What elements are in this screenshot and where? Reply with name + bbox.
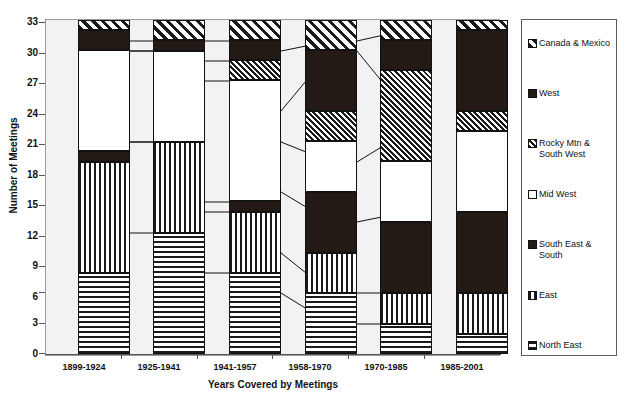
stacked-bar-chart: 33 30 27 24 21 18 15 12 9 6 3 0 Number o… xyxy=(0,0,621,404)
segment-west xyxy=(456,30,508,111)
segment-canada-and-mexico xyxy=(380,20,432,40)
y-axis-title: Number of Meetings xyxy=(8,101,19,231)
x-tick xyxy=(197,354,198,359)
legend-swatch-south-east-and-south-icon xyxy=(528,240,537,249)
segment-canada-and-mexico xyxy=(153,20,205,40)
segment-rocky-mtn-south-west xyxy=(305,111,357,141)
segment-south-east-and-south xyxy=(456,212,508,293)
x-tick-label-1899-1924: 1899-1924 xyxy=(46,362,122,373)
x-tick-label-1970-1985: 1970-1985 xyxy=(348,362,424,373)
legend-swatch-mid-west-icon xyxy=(528,190,537,199)
segment-east xyxy=(153,142,205,233)
legend-label: Mid West xyxy=(539,189,576,200)
segment-west xyxy=(305,50,357,111)
x-tick-label-1925-1941: 1925-1941 xyxy=(121,362,197,373)
segment-east xyxy=(380,293,432,324)
x-axis-title: Years Covered by Meetings xyxy=(45,379,501,390)
x-tick xyxy=(424,354,425,359)
segment-canada-and-mexico xyxy=(305,20,357,50)
chart-legend: Canada & Mexico West Rocky Mtn & South W… xyxy=(521,19,617,356)
legend-swatch-canada-and-mexico-icon xyxy=(528,39,537,48)
legend-item-south-east-and-south: South East & South xyxy=(528,239,616,260)
segment-north-east xyxy=(229,273,281,354)
plot-area xyxy=(46,20,499,354)
segment-canada-and-mexico xyxy=(456,20,508,30)
segment-south-east-and-south xyxy=(78,151,130,162)
legend-label: Rocky Mtn & South West xyxy=(539,138,616,159)
segment-west xyxy=(380,40,432,70)
x-tick-label-1985-2001: 1985-2001 xyxy=(424,362,500,373)
segment-east xyxy=(305,253,357,293)
segment-north-east xyxy=(380,324,432,354)
legend-item-north-east: North East xyxy=(528,340,582,351)
legend-swatch-rocky-mtn-south-west-icon xyxy=(528,139,537,148)
segment-south-east-and-south xyxy=(305,192,357,253)
x-tick xyxy=(272,354,273,359)
segment-west xyxy=(153,40,205,51)
segment-north-east xyxy=(456,334,508,354)
segment-rocky-mtn-south-west xyxy=(456,111,508,131)
segment-north-east xyxy=(305,293,357,354)
segment-north-east xyxy=(78,273,130,354)
segment-west xyxy=(229,40,281,60)
x-axis-line xyxy=(45,354,501,355)
legend-item-canada-and-mexico: Canada & Mexico xyxy=(528,38,610,49)
x-tick-label-1958-1970: 1958-1970 xyxy=(272,362,348,373)
segment-north-east xyxy=(153,233,205,354)
segment-east xyxy=(456,293,508,334)
legend-label: North East xyxy=(539,340,582,351)
x-tick xyxy=(348,354,349,359)
segment-canada-and-mexico xyxy=(229,20,281,40)
x-tick xyxy=(121,354,122,359)
legend-label: Canada & Mexico xyxy=(539,38,610,49)
legend-item-west: West xyxy=(528,88,559,99)
segment-canada-and-mexico xyxy=(78,20,130,30)
legend-item-rocky-mtn-south-west: Rocky Mtn & South West xyxy=(528,138,616,159)
segment-south-east-and-south xyxy=(229,201,281,212)
legend-label: South East & South xyxy=(539,239,616,260)
y-axis-title-wrap: Number of Meetings xyxy=(0,0,40,404)
legend-swatch-east-icon xyxy=(528,291,537,300)
segment-east xyxy=(78,162,130,273)
segment-mid-west xyxy=(380,161,432,222)
segment-rocky-mtn-south-west xyxy=(229,60,281,80)
legend-label: East xyxy=(539,290,557,301)
legend-item-mid-west: Mid West xyxy=(528,189,576,200)
segment-south-east-and-south xyxy=(380,222,432,293)
x-tick-label-1941-1957: 1941-1957 xyxy=(197,362,273,373)
legend-swatch-north-east-icon xyxy=(528,341,537,350)
legend-item-east: East xyxy=(528,290,557,301)
legend-label: West xyxy=(539,88,559,99)
segment-mid-west xyxy=(456,131,508,212)
segment-mid-west xyxy=(153,51,205,142)
segment-east xyxy=(229,212,281,273)
segment-mid-west xyxy=(78,50,130,151)
segment-mid-west xyxy=(305,141,357,192)
segment-west xyxy=(78,30,130,50)
segment-rocky-mtn-south-west xyxy=(380,70,432,161)
legend-swatch-west-icon xyxy=(528,89,537,98)
segment-mid-west xyxy=(229,80,281,201)
